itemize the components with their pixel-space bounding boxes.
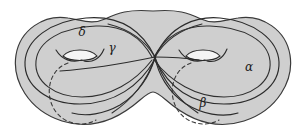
label-beta: β: [199, 96, 207, 110]
genus-two-surface-diagram: δ γ α β: [0, 0, 306, 131]
center-crossing-point: [154, 56, 157, 59]
label-delta: δ: [78, 25, 85, 39]
label-gamma: γ: [108, 41, 116, 55]
label-alpha: α: [245, 60, 253, 74]
figure-container: δ γ α β: [0, 0, 306, 131]
